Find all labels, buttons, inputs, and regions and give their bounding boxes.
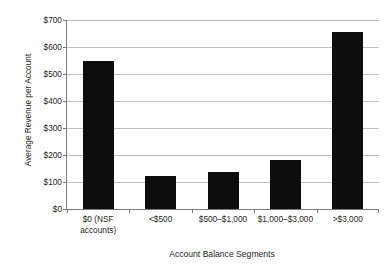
gridline — [67, 20, 379, 21]
bar — [145, 176, 176, 209]
x-tick-mark — [192, 209, 193, 213]
y-tick-label: $400 — [44, 96, 62, 106]
y-tick-label: $600 — [44, 42, 62, 52]
y-axis-title: Average Revenue per Account — [23, 20, 33, 200]
y-tick-mark — [63, 101, 67, 102]
x-tick-label: >$3,000 — [308, 214, 384, 225]
y-tick-mark — [63, 128, 67, 129]
y-tick-label: $700 — [44, 15, 62, 25]
bar — [332, 32, 363, 209]
y-tick-label: $100 — [44, 177, 62, 187]
x-tick-mark — [254, 209, 255, 213]
x-tick-mark — [378, 209, 379, 213]
bar — [208, 172, 239, 209]
x-tick-mark — [129, 209, 130, 213]
y-tick-mark — [63, 47, 67, 48]
y-tick-mark — [63, 182, 67, 183]
x-tick-mark — [67, 209, 68, 213]
plot-area: $0$100$200$300$400$500$600$700 $0 (NSF a… — [66, 20, 379, 210]
x-tick-mark — [317, 209, 318, 213]
y-tick-mark — [63, 155, 67, 156]
chart-title-cutoff — [0, 0, 384, 5]
y-tick-label: $500 — [44, 69, 62, 79]
y-tick-label: $300 — [44, 123, 62, 133]
y-tick-mark — [63, 74, 67, 75]
bar — [83, 61, 114, 210]
bar-chart-figure: Average Revenue per Account $0$100$200$3… — [0, 0, 384, 267]
x-axis-title: Account Balance Segments — [66, 249, 378, 259]
y-tick-mark — [63, 20, 67, 21]
y-tick-label: $0 — [53, 204, 62, 214]
y-tick-label: $200 — [44, 150, 62, 160]
bar — [270, 160, 301, 209]
